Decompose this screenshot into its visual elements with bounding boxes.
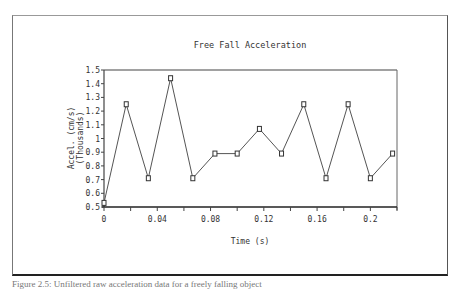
data-point-marker	[280, 151, 284, 156]
data-point-marker	[391, 151, 395, 156]
y-tick-label: 1.2	[86, 107, 101, 116]
data-point-marker	[368, 176, 372, 181]
figure-caption: Figure 2.5: Unfiltered raw acceleration …	[12, 279, 262, 289]
data-point-marker	[213, 151, 217, 156]
x-tick-label: 0.16	[307, 215, 326, 224]
data-point-marker	[324, 176, 328, 181]
series-line	[104, 78, 393, 203]
y-axis-label: Accel. (cm/s) (Thousands)	[67, 107, 85, 170]
data-point-marker	[102, 200, 106, 205]
y-axis-label-sub: (Thousands)	[76, 112, 85, 165]
y-tick-label: 1.4	[86, 80, 101, 89]
chart-title: Free Fall Acceleration	[194, 40, 307, 50]
x-tick-label: 0	[102, 215, 107, 224]
y-axis-label-main: Accel. (cm/s)	[67, 107, 76, 170]
data-point-marker	[257, 126, 261, 131]
x-tick-label: 0.2	[363, 215, 378, 224]
data-point-marker	[235, 151, 239, 156]
y-tick-label: 1.3	[86, 93, 101, 102]
y-tick-label: 1.5	[86, 66, 101, 75]
data-point-marker	[146, 176, 150, 181]
plot-area: 0.50.60.70.80.911.11.21.31.41.500.040.08…	[86, 66, 397, 224]
y-tick-label: 0.6	[86, 189, 101, 198]
y-tick-label: 1.1	[86, 121, 101, 130]
y-tick-label: 0.5	[86, 203, 101, 212]
x-tick-label: 0.04	[148, 215, 167, 224]
x-tick-label: 0.08	[201, 215, 220, 224]
y-tick-label: 0.9	[86, 148, 101, 157]
data-point-marker	[169, 76, 173, 81]
y-tick-label: 0.8	[86, 162, 101, 171]
data-point-marker	[346, 102, 350, 107]
y-tick-label: 1	[95, 135, 100, 144]
data-point-marker	[191, 176, 195, 181]
data-point-marker	[124, 102, 128, 107]
x-axis-label: Time (s)	[231, 237, 270, 246]
y-tick-label: 0.7	[86, 176, 101, 185]
data-point-marker	[302, 102, 306, 107]
x-tick-label: 0.12	[254, 215, 273, 224]
